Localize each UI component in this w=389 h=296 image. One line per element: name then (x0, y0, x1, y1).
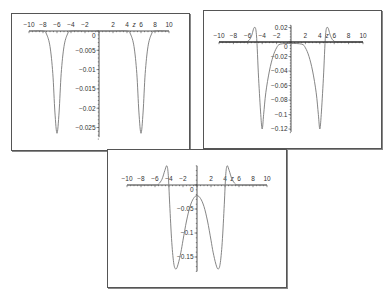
x-tick-label: 6 (139, 21, 143, 28)
y-tick-label: −0.01 (79, 66, 96, 73)
x-tick-label: −10 (121, 175, 132, 182)
x-tick-label: −2 (273, 32, 281, 39)
y-tick-label: −0.08 (271, 96, 288, 103)
x-tick-label: −2 (81, 21, 89, 28)
x-tick-label: −4 (165, 175, 173, 182)
y-tick-label: −0.015 (75, 85, 95, 92)
x-tick-label: −8 (230, 32, 238, 39)
plot-2-svg: −10−8−6−4−2246810z0.020−0.02−0.04−0.06−0… (204, 11, 381, 148)
x-tick-label: 2 (111, 21, 115, 28)
y-axis: 0.020−0.02−0.04−0.06−0.08−0.1−0.12 (271, 24, 291, 133)
x-axis-label: z (131, 21, 136, 28)
plot-3-svg: −10−8−6−4−2246810z0−0.05−0.1−0.15 (108, 150, 286, 287)
y-tick-label: −0.12 (271, 125, 288, 132)
x-tick-label: 10 (165, 21, 173, 28)
y-tick-label: −0.05 (177, 205, 194, 212)
y-tick-label: −0.1 (181, 229, 194, 236)
y-axis: 0−0.005−0.01−0.015−0.02−0.025 (75, 31, 99, 139)
y-tick-label: −0.1 (275, 111, 288, 118)
x-tick-label: 8 (347, 32, 351, 39)
plot-1-svg: −10−8−6−4−2246810z0−0.005−0.01−0.015−0.0… (12, 14, 189, 150)
x-tick-label: 6 (237, 175, 241, 182)
x-tick-label: 10 (263, 175, 271, 182)
y-tick-label: −0.02 (79, 105, 96, 112)
x-tick-label: 2 (304, 32, 308, 39)
x-tick-label: −6 (53, 21, 61, 28)
plot-panel-3: −10−8−6−4−2246810z0−0.05−0.1−0.15 (107, 149, 287, 288)
plot-panel-2: −10−8−6−4−2246810z0.020−0.02−0.04−0.06−0… (203, 10, 382, 149)
y-tick-label: −0.005 (75, 47, 95, 54)
x-tick-label: 6 (332, 32, 336, 39)
x-tick-label: −4 (258, 32, 266, 39)
plot-panel-1: −10−8−6−4−2246810z0−0.005−0.01−0.015−0.0… (11, 13, 190, 151)
x-tick-label: −10 (213, 32, 224, 39)
y-tick-label: 0 (190, 186, 194, 193)
x-tick-label: 4 (125, 21, 129, 28)
x-tick-label: −8 (39, 21, 47, 28)
x-tick-label: −10 (23, 21, 34, 28)
y-tick-label: 0.02 (275, 24, 288, 31)
x-tick-label: −8 (137, 175, 145, 182)
x-tick-label: 10 (359, 32, 367, 39)
x-tick-label: −4 (67, 21, 75, 28)
y-tick-label: 0 (92, 32, 96, 39)
x-tick-label: 4 (318, 32, 322, 39)
y-tick-label: −0.025 (75, 124, 95, 131)
y-tick-label: −0.04 (271, 67, 288, 74)
x-tick-label: −6 (151, 175, 159, 182)
x-tick-label: 8 (251, 175, 255, 182)
y-tick-label: −0.06 (271, 82, 288, 89)
x-tick-label: −2 (179, 175, 187, 182)
x-tick-label: 2 (209, 175, 213, 182)
x-tick-label: 8 (153, 21, 157, 28)
